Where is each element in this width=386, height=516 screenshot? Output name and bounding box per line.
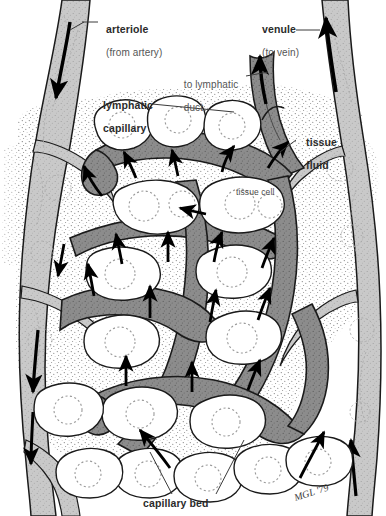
label-lymphatic-capillary: lymphatic capillary bbox=[97, 88, 153, 135]
label-venule-text: venule bbox=[262, 23, 296, 35]
label-lymphatic-duct-text: to lymphatic bbox=[184, 79, 239, 90]
label-tissue-fluid-text: tissue bbox=[306, 136, 337, 148]
label-tissue-cell: tissue cell bbox=[236, 188, 274, 198]
label-lymphatic-capillary-text: lymphatic bbox=[103, 99, 153, 111]
label-lymphatic-duct: to lymphatic duct bbox=[178, 68, 238, 113]
label-tissue-fluid-sub: fluid bbox=[306, 159, 329, 171]
label-venule: venule (to vein) bbox=[256, 12, 299, 59]
label-venule-sub: (to vein) bbox=[262, 47, 299, 58]
label-lymphatic-capillary-sub: capillary bbox=[103, 122, 147, 134]
label-arteriole-text: arteriole bbox=[106, 23, 148, 35]
label-lymphatic-duct-sub: duct bbox=[184, 102, 203, 113]
label-arteriole-sub: (from artery) bbox=[106, 47, 162, 58]
figure-canvas: arteriole (from artery) venule (to vein)… bbox=[0, 0, 386, 516]
label-capillary-bed: capillary bed bbox=[143, 498, 209, 510]
label-tissue-fluid: tissue fluid bbox=[300, 125, 337, 172]
label-arteriole: arteriole (from artery) bbox=[100, 12, 162, 59]
